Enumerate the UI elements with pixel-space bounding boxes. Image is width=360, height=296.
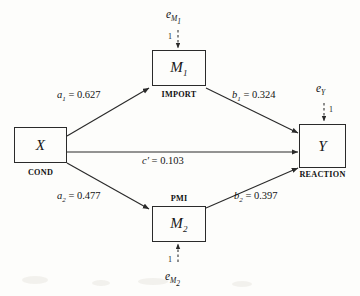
error-loading-e-m1: 1 (168, 32, 172, 41)
scan-artifact (22, 276, 48, 284)
error-loading-e-m2: 1 (168, 255, 172, 264)
path-label-a2: a2 = 0.477 (57, 190, 101, 204)
node-variable-m2: M2 (170, 215, 188, 234)
scan-artifact (232, 281, 252, 287)
error-loading-e-y: 1 (329, 105, 333, 114)
path-label-cprime: c′ = 0.103 (142, 155, 184, 166)
node-box-y[interactable]: Y (299, 124, 346, 168)
node-box-m1[interactable]: M1 (152, 50, 206, 86)
path-label-b2: b2 = 0.397 (234, 190, 278, 204)
node-variable-m1: M1 (170, 59, 188, 78)
path-label-b1: b1 = 0.324 (232, 89, 276, 103)
node-caption-import: IMPORT (152, 90, 206, 99)
node-caption-reaction: REACTION (292, 170, 353, 179)
path-label-a1: a1 = 0.627 (57, 89, 101, 103)
node-box-x[interactable]: X (14, 127, 67, 163)
error-label-e-m2: eM2 (165, 270, 180, 288)
scan-artifact (92, 280, 110, 286)
node-variable-y: Y (318, 138, 327, 155)
scan-artifact (138, 278, 168, 285)
node-caption-cond: COND (14, 168, 67, 177)
node-variable-x: X (36, 137, 45, 154)
node-caption-pmi: PMI (152, 194, 206, 203)
error-label-e-y: eY (316, 82, 325, 97)
node-box-m2[interactable]: M2 (152, 206, 206, 242)
error-label-e-m1: eM1 (166, 8, 181, 26)
mediation-diagram: X COND M1 IMPORT M2 PMI Y REACTION a1 = … (0, 0, 360, 296)
